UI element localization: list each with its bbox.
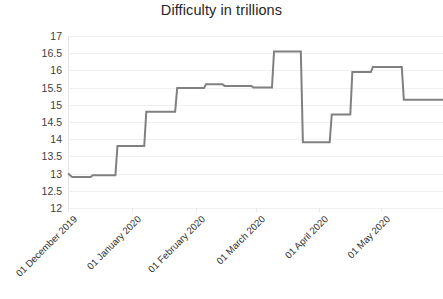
x-tick-mark [319, 208, 320, 212]
x-tick-label: 01 April 2020 [284, 214, 331, 261]
x-tick-mark [68, 208, 69, 212]
y-tick-label: 16.5 [18, 48, 62, 58]
y-tick-label: 12.5 [18, 186, 62, 196]
series-line-difficulty [68, 36, 443, 208]
y-tick-label: 15 [18, 100, 62, 110]
x-tick-label: 01 January 2020 [85, 214, 143, 272]
chart-title: Difficulty in trillions [0, 2, 443, 18]
x-axis-labels: 01 December 201901 January 202001 Februa… [0, 208, 443, 299]
plot-area [68, 36, 443, 208]
x-tick-label: 01 March 2020 [214, 214, 266, 266]
y-tick-label: 16 [18, 65, 62, 75]
x-tick-mark [256, 208, 257, 212]
x-tick-label: 01 May 2020 [346, 214, 392, 260]
x-tick-label: 01 February 2020 [146, 214, 207, 275]
x-tick-mark [196, 208, 197, 212]
x-tick-label: 01 December 2019 [14, 214, 79, 279]
difficulty-chart: Difficulty in trillions 1716.51615.51514… [0, 0, 443, 299]
y-tick-label: 15.5 [18, 83, 62, 93]
x-tick-mark [132, 208, 133, 212]
y-tick-label: 13.5 [18, 151, 62, 161]
y-tick-label: 17 [18, 31, 62, 41]
y-tick-label: 13 [18, 169, 62, 179]
x-tick-mark [381, 208, 382, 212]
y-tick-label: 14 [18, 134, 62, 144]
y-axis-labels: 1716.51615.51514.51413.51312.512 [18, 36, 62, 208]
y-tick-label: 14.5 [18, 117, 62, 127]
